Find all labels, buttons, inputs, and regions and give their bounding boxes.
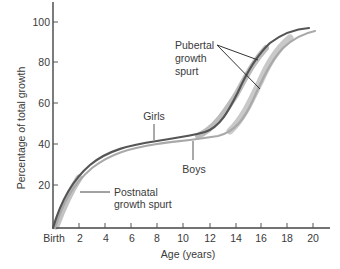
y-tick-40: 40 (38, 138, 50, 150)
y-tick-80: 80 (38, 56, 50, 68)
girls-label: Girls (143, 110, 165, 122)
x-tick-8: 8 (154, 232, 160, 244)
highlight-bands (56, 38, 290, 226)
x-axis-title: Age (years) (161, 248, 215, 260)
pubertal-label-line2: growth (175, 52, 207, 64)
x-tick-2: 2 (77, 232, 83, 244)
y-tick-labels: 100 80 60 40 20 (32, 16, 50, 191)
y-tick-20: 20 (38, 179, 50, 191)
postnatal-label-line1: Postnatal (114, 186, 158, 198)
x-tick-14: 14 (230, 232, 242, 244)
pubertal-label-line3: spurt (175, 65, 198, 77)
x-tick-4: 4 (103, 232, 109, 244)
growth-chart: 100 80 60 40 20 Birth 2 4 6 8 10 12 14 1… (0, 0, 340, 269)
x-tick-labels: Birth 2 4 6 8 10 12 14 16 18 20 (43, 232, 319, 244)
y-axis-title: Percentage of total growth (15, 67, 27, 190)
x-ticks (79, 223, 313, 228)
x-tick-12: 12 (204, 232, 216, 244)
x-tick-10: 10 (177, 232, 189, 244)
y-tick-100: 100 (32, 16, 50, 28)
x-tick-birth: Birth (43, 232, 65, 244)
boys-label: Boys (182, 163, 205, 175)
x-tick-16: 16 (255, 232, 267, 244)
x-tick-20: 20 (307, 232, 319, 244)
pubertal-leader-girls (217, 45, 258, 60)
pubertal-label-line1: Pubertal (175, 39, 214, 51)
y-tick-60: 60 (38, 97, 50, 109)
x-tick-18: 18 (281, 232, 293, 244)
y-ticks (53, 22, 58, 185)
postnatal-label-line2: growth spurt (114, 198, 172, 210)
x-tick-6: 6 (129, 232, 135, 244)
